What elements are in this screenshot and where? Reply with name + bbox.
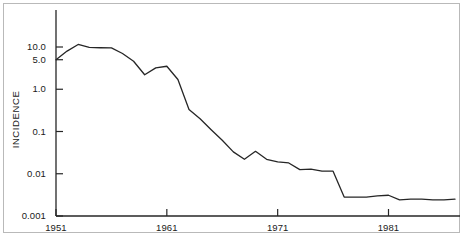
plot-area: 10.05.01.00.10.010.001 1951196119711981 … bbox=[0, 0, 466, 246]
chart-canvas bbox=[0, 0, 466, 246]
x-tick-label: 1981 bbox=[365, 222, 413, 233]
y-tick-label: 1.0 bbox=[0, 83, 46, 94]
x-tick-label: 1951 bbox=[32, 222, 80, 233]
x-tick-label: 1961 bbox=[143, 222, 191, 233]
y-tick-label: 0.001 bbox=[0, 210, 46, 221]
tick-marks bbox=[56, 47, 389, 216]
chart-figure: 10.05.01.00.10.010.001 1951196119711981 … bbox=[0, 0, 466, 246]
y-tick-label: 0.01 bbox=[0, 168, 46, 179]
x-tick-label: 1971 bbox=[254, 222, 302, 233]
axis-lines bbox=[56, 10, 460, 216]
y-tick-label: 5.0 bbox=[0, 54, 46, 65]
incidence-line bbox=[56, 44, 455, 200]
y-axis-title: INCIDENCE bbox=[10, 75, 21, 165]
y-tick-label: 10.0 bbox=[0, 41, 46, 52]
y-tick-label: 0.1 bbox=[0, 126, 46, 137]
